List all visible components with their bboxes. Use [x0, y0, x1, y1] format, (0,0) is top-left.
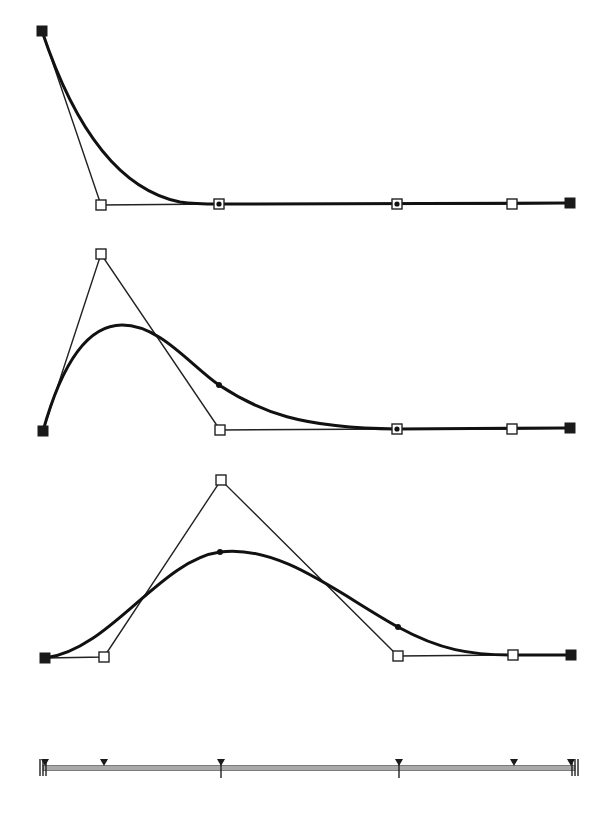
- graph-3: [40, 475, 576, 663]
- control-point-endpoint[interactable]: [38, 426, 48, 436]
- control-point-endpoint[interactable]: [40, 653, 50, 663]
- knot-point: [395, 624, 401, 630]
- control-point[interactable]: [507, 424, 517, 434]
- knot-marker-icon[interactable]: [567, 759, 575, 766]
- knot-vector-bar: [40, 759, 578, 778]
- control-point[interactable]: [96, 200, 106, 210]
- bspline-diagram: [0, 0, 607, 824]
- control-point[interactable]: [96, 249, 106, 259]
- bspline-curve: [43, 325, 570, 431]
- control-point[interactable]: [99, 652, 109, 662]
- knot-marker-icon[interactable]: [100, 759, 108, 766]
- control-point-endpoint[interactable]: [565, 423, 575, 433]
- control-polygon: [45, 480, 571, 658]
- control-point[interactable]: [215, 425, 225, 435]
- control-point-target[interactable]: [392, 199, 402, 209]
- control-point-endpoint[interactable]: [37, 26, 47, 36]
- knot-marker-icon[interactable]: [510, 759, 518, 766]
- control-polygon: [43, 254, 570, 431]
- control-polygon: [42, 31, 570, 205]
- control-point-endpoint[interactable]: [566, 650, 576, 660]
- graph-1: [37, 26, 575, 210]
- knot-marker-icon[interactable]: [395, 759, 403, 766]
- knot-point: [217, 549, 223, 555]
- knot-bar-track[interactable]: [43, 766, 575, 771]
- control-point[interactable]: [393, 651, 403, 661]
- control-point-target[interactable]: [392, 424, 402, 434]
- control-point[interactable]: [508, 650, 518, 660]
- control-point-target[interactable]: [214, 199, 224, 209]
- knot-marker-icon[interactable]: [41, 759, 49, 766]
- control-point-endpoint[interactable]: [565, 198, 575, 208]
- graph-2: [38, 249, 575, 436]
- graphs-layer: [37, 26, 576, 663]
- control-point[interactable]: [216, 475, 226, 485]
- bspline-curve: [42, 31, 570, 204]
- knot-marker-icon[interactable]: [217, 759, 225, 766]
- control-point[interactable]: [507, 199, 517, 209]
- knot-point: [216, 382, 222, 388]
